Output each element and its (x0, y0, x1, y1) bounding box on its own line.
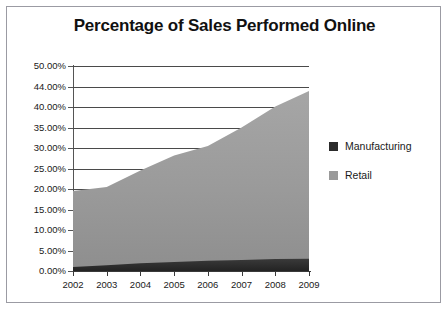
retail-area-series (73, 91, 309, 271)
x-axis-tick (309, 272, 310, 276)
legend-item[interactable]: Manufacturing (329, 140, 441, 152)
legend-label: Manufacturing (345, 140, 412, 152)
legend-item[interactable]: Retail (329, 169, 441, 181)
x-axis-tick (208, 272, 209, 276)
y-axis-label: 10.00% (10, 225, 66, 235)
y-axis-label: 0.00% (10, 266, 66, 276)
x-axis-tick (140, 272, 141, 276)
legend-label: Retail (345, 169, 372, 181)
x-axis-label: 2005 (156, 279, 192, 290)
x-axis-tick (107, 272, 108, 276)
x-axis-label: 2003 (89, 279, 125, 290)
x-axis-tick (174, 272, 175, 276)
x-axis-label: 2007 (224, 279, 260, 290)
chart-title: Percentage of Sales Performed Online (7, 16, 442, 36)
y-axis-label: 40.00% (10, 102, 66, 112)
legend-swatch-icon (329, 171, 338, 180)
chart-legend: ManufacturingRetail (329, 140, 441, 198)
x-axis-label: 2008 (257, 279, 293, 290)
y-axis-label: 5.00% (10, 246, 66, 256)
y-axis-label: 35.00% (10, 123, 66, 133)
y-axis-label: 25.00% (10, 164, 66, 174)
y-axis-label: 30.00% (10, 143, 66, 153)
y-axis-label: 50.00% (10, 61, 66, 71)
chart-container: Percentage of Sales Performed Online 50.… (6, 6, 441, 303)
plot-area (73, 66, 309, 271)
x-axis-label: 2009 (291, 279, 327, 290)
x-axis-label: 2006 (190, 279, 226, 290)
x-axis-label: 2002 (55, 279, 91, 290)
y-axis-label: 44.00% (10, 82, 66, 92)
y-axis-labels: 50.00%44.00%40.00%35.00%30.00%25.00%20.0… (7, 7, 66, 304)
y-axis-label: 20.00% (10, 184, 66, 194)
series-areas (73, 66, 309, 271)
x-axis-tick (275, 272, 276, 276)
x-axis-tick (73, 272, 74, 276)
x-axis-label: 2004 (122, 279, 158, 290)
legend-swatch-icon (329, 142, 338, 151)
y-axis-label: 15.00% (10, 205, 66, 215)
x-axis-tick (242, 272, 243, 276)
